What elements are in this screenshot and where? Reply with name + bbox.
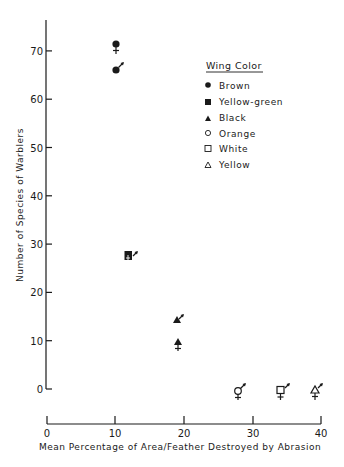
x-tick-label: 10 bbox=[109, 428, 122, 439]
y-tick-label: 10 bbox=[30, 336, 43, 347]
svg-text:Yellow-green: Yellow-green bbox=[218, 97, 283, 107]
svg-text:Yellow: Yellow bbox=[218, 160, 250, 170]
y-tick-label: 60 bbox=[30, 94, 43, 105]
y-tick-label: 30 bbox=[30, 239, 43, 250]
legend-title: Wing Color bbox=[206, 60, 262, 71]
point-brown-female bbox=[112, 40, 119, 54]
x-axis: 0 10 20 30 40 Mean Percentage of Area/Fe… bbox=[39, 416, 327, 452]
x-tick-label: 40 bbox=[315, 428, 328, 439]
filled-circle-icon bbox=[205, 82, 211, 88]
open-square-icon bbox=[205, 146, 211, 152]
x-tick-label: 20 bbox=[178, 428, 191, 439]
filled-triangle-icon bbox=[205, 116, 211, 122]
filled-square-icon bbox=[205, 99, 211, 105]
y-tick-label: 70 bbox=[30, 46, 43, 57]
legend: Wing Color Brown Yellow-green Black Oran… bbox=[205, 60, 283, 170]
svg-text:White: White bbox=[219, 144, 248, 154]
point-yellow bbox=[311, 383, 323, 400]
open-triangle-icon bbox=[205, 162, 211, 168]
point-brown-male bbox=[112, 62, 124, 74]
y-tick-label: 50 bbox=[30, 143, 43, 154]
point-black-male bbox=[173, 314, 184, 323]
y-tick-label: 40 bbox=[30, 191, 43, 202]
open-circle-icon bbox=[205, 130, 210, 135]
scatter-chart: 0 10 20 30 40 50 60 70 Number of Species… bbox=[0, 0, 344, 467]
point-white bbox=[277, 383, 290, 400]
point-yellow-green bbox=[125, 251, 139, 261]
x-tick-label: 30 bbox=[247, 428, 260, 439]
legend-item-white: White bbox=[205, 144, 248, 154]
legend-item-orange: Orange bbox=[205, 129, 255, 139]
legend-item-yellow: Yellow bbox=[205, 160, 250, 170]
svg-text:Brown: Brown bbox=[219, 81, 250, 91]
point-black-female bbox=[174, 338, 182, 351]
svg-text:Black: Black bbox=[219, 113, 247, 123]
legend-item-brown: Brown bbox=[205, 81, 250, 91]
y-tick-label: 0 bbox=[37, 384, 43, 395]
x-tick-label: 0 bbox=[44, 428, 50, 439]
y-axis-title: Number of Species of Warblers bbox=[15, 128, 25, 282]
y-axis: 0 10 20 30 40 50 60 70 Number of Species… bbox=[15, 20, 52, 395]
svg-text:Orange: Orange bbox=[219, 129, 256, 139]
point-orange bbox=[235, 383, 246, 400]
x-axis-title: Mean Percentage of Area/Feather Destroye… bbox=[39, 442, 321, 452]
legend-item-yellow-green: Yellow-green bbox=[205, 97, 283, 107]
data-points bbox=[112, 40, 323, 400]
legend-item-black: Black bbox=[205, 113, 247, 123]
y-tick-label: 20 bbox=[30, 287, 43, 298]
